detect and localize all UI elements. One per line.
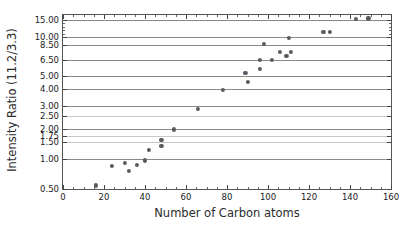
x-tick-minor <box>289 187 290 189</box>
y-tick-mark-right <box>387 159 391 160</box>
x-tick-minor <box>217 187 218 189</box>
y-tick-mark <box>63 189 67 190</box>
data-point <box>221 88 225 92</box>
y-gridline <box>63 106 391 107</box>
x-tick-minor-top <box>299 15 300 17</box>
data-point <box>172 127 176 131</box>
y-tick-label: 10.00 <box>0 32 63 42</box>
x-tick-minor <box>114 187 115 189</box>
x-tick-minor-top <box>73 15 74 17</box>
y-tick-mark-right <box>387 116 391 117</box>
x-tick-minor <box>360 187 361 189</box>
y-tick-mark <box>63 142 67 143</box>
x-tick-minor-top <box>155 15 156 17</box>
x-tick-minor <box>340 187 341 189</box>
y-tick-mark-right <box>387 45 391 46</box>
x-tick-mark <box>186 185 187 189</box>
y-tick-mark-right <box>387 129 391 130</box>
data-point <box>135 163 139 167</box>
y-tick-mark <box>63 116 67 117</box>
data-point <box>159 144 163 148</box>
y-tick-label: 3.00 <box>0 101 63 111</box>
x-tick-mark <box>63 185 64 189</box>
y-tick-label: 2.00 <box>0 124 63 134</box>
y-tick-mark <box>63 136 67 137</box>
y-gridline <box>63 45 391 46</box>
y-tick-minor-right <box>389 34 391 35</box>
x-tick-minor <box>371 187 372 189</box>
x-tick-minor <box>125 187 126 189</box>
plot-area: 0.501.001.501.752.002.503.004.005.006.50… <box>62 14 392 190</box>
y-tick-mark <box>63 37 67 38</box>
x-tick-mark <box>268 185 269 189</box>
y-tick-label: 2.50 <box>0 111 63 121</box>
x-tick-label: 80 <box>222 192 233 202</box>
y-gridline <box>63 76 391 77</box>
x-tick-minor <box>155 187 156 189</box>
x-tick-minor-top <box>176 15 177 17</box>
x-tick-label: 0 <box>60 192 65 202</box>
x-tick-label: 120 <box>301 192 317 202</box>
x-tick-label: 60 <box>181 192 192 202</box>
x-tick-mark-top <box>186 15 187 19</box>
y-tick-minor <box>63 34 65 35</box>
x-tick-minor-top <box>94 15 95 17</box>
x-tick-minor <box>166 187 167 189</box>
x-tick-minor <box>381 187 382 189</box>
data-point <box>258 58 262 62</box>
x-tick-minor-top <box>278 15 279 17</box>
x-tick-minor <box>73 187 74 189</box>
x-tick-minor <box>84 187 85 189</box>
x-tick-minor-top <box>381 15 382 17</box>
x-tick-mark-top <box>145 15 146 19</box>
y-tick-mark <box>63 76 67 77</box>
y-tick-minor-right <box>389 23 391 24</box>
data-point <box>147 148 151 152</box>
y-gridline <box>63 20 391 21</box>
x-tick-label: 20 <box>99 192 110 202</box>
x-tick-minor <box>330 187 331 189</box>
x-tick-minor-top <box>196 15 197 17</box>
y-tick-mark <box>63 89 67 90</box>
x-tick-minor <box>248 187 249 189</box>
x-tick-label: 40 <box>140 192 151 202</box>
y-tick-label: 1.00 <box>0 154 63 164</box>
y-tick-mark-right <box>387 20 391 21</box>
x-tick-mark-top <box>350 15 351 19</box>
y-tick-mark <box>63 60 67 61</box>
x-tick-mark <box>350 185 351 189</box>
x-tick-minor <box>176 187 177 189</box>
y-tick-mark <box>63 129 67 130</box>
y-tick-mark <box>63 20 67 21</box>
x-tick-minor-top <box>248 15 249 17</box>
y-tick-label: 6.50 <box>0 55 63 65</box>
y-tick-minor-right <box>389 30 391 31</box>
y-gridline <box>63 129 391 130</box>
x-tick-minor-top <box>207 15 208 17</box>
x-tick-minor <box>319 187 320 189</box>
data-point <box>143 158 147 162</box>
data-point <box>286 36 290 40</box>
chart-figure: Intensity Ratio (11.2/3.3) 0.501.001.501… <box>0 0 417 230</box>
x-tick-minor <box>135 187 136 189</box>
data-point <box>110 164 114 168</box>
y-gridline <box>63 116 391 117</box>
data-point <box>159 138 163 142</box>
y-tick-mark-right <box>387 89 391 90</box>
x-tick-mark <box>391 185 392 189</box>
data-point <box>321 30 325 34</box>
x-tick-minor-top <box>289 15 290 17</box>
x-tick-minor <box>94 187 95 189</box>
x-tick-minor-top <box>371 15 372 17</box>
x-tick-minor-top <box>360 15 361 17</box>
x-tick-minor-top <box>319 15 320 17</box>
data-point <box>245 80 249 84</box>
y-tick-mark-right <box>387 136 391 137</box>
x-tick-mark-top <box>104 15 105 19</box>
x-tick-minor <box>196 187 197 189</box>
y-gridline <box>63 142 391 143</box>
y-gridline <box>63 89 391 90</box>
x-tick-minor <box>237 187 238 189</box>
y-gridline <box>63 159 391 160</box>
data-point <box>284 53 288 57</box>
